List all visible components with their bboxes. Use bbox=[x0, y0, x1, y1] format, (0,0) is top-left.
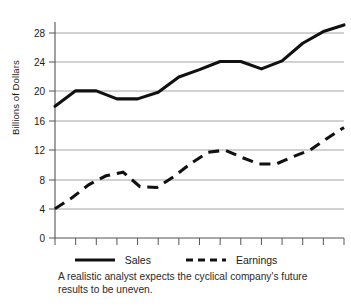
legend-entry-sales: Sales bbox=[74, 254, 151, 266]
y-tick-label-20: 20 bbox=[34, 86, 46, 97]
chart-svg: 28 24 20 16 12 8 4 0 bbox=[0, 0, 351, 250]
y-tick-label-8: 8 bbox=[39, 175, 45, 186]
y-tick-label-4: 4 bbox=[39, 204, 45, 215]
y-tick-label-12: 12 bbox=[34, 145, 46, 156]
x-axis-ticks bbox=[55, 238, 344, 245]
y-tick-label-24: 24 bbox=[34, 57, 46, 68]
gridlines bbox=[55, 33, 344, 209]
series-line-earnings bbox=[55, 127, 344, 208]
legend-entry-earnings: Earnings bbox=[185, 254, 277, 266]
chart-plot-area: Billions of Dollars bbox=[0, 0, 351, 250]
y-tick-label-16: 16 bbox=[34, 116, 46, 127]
y-axis: 28 24 20 16 12 8 4 0 bbox=[34, 22, 55, 244]
chart-figure: Billions of Dollars bbox=[0, 0, 351, 307]
x-axis bbox=[55, 238, 344, 245]
legend-swatch-dashed-icon bbox=[185, 254, 227, 266]
y-tick-label-28: 28 bbox=[34, 28, 46, 39]
y-axis-label: Billions of Dollars bbox=[10, 38, 21, 158]
legend-label-earnings: Earnings bbox=[236, 254, 277, 266]
chart-caption: A realistic analyst expects the cyclical… bbox=[58, 270, 328, 296]
legend-label-sales: Sales bbox=[125, 254, 151, 266]
y-tick-label-0: 0 bbox=[39, 233, 45, 244]
series-line-sales bbox=[55, 25, 344, 106]
chart-legend: Sales Earnings bbox=[0, 250, 351, 270]
legend-swatch-solid-icon bbox=[74, 254, 116, 266]
